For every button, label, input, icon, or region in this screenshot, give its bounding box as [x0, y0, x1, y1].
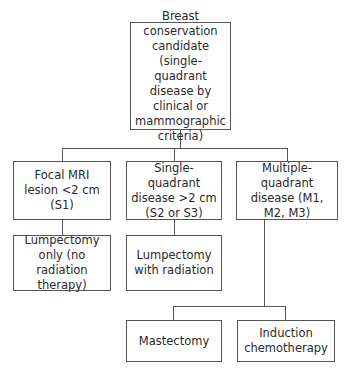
- branch-node-focal-lesion: Focal MRI lesion <2 cm (S1): [13, 161, 111, 220]
- connector-branch-2: [174, 148, 175, 161]
- root-node: Breast conservation candidate (single-qu…: [130, 22, 231, 130]
- branch-node-multiple-quadrant: Multiple-quadrant disease (M1, M2, M3): [236, 161, 338, 220]
- connector-branch-2-outcome: [174, 220, 175, 235]
- connector-mastectomy: [173, 306, 174, 320]
- outcome-node-induction-chemotherapy: Induction chemotherapy: [237, 320, 335, 362]
- outcome-node-mastectomy: Mastectomy: [126, 320, 222, 362]
- outcome-node-label: Induction chemotherapy: [241, 326, 331, 356]
- connector-branch-3-down: [264, 220, 265, 306]
- branch-node-single-quadrant: Single-quadrant disease >2 cm (S2 or S3): [126, 161, 222, 220]
- connector-horizontal-branches: [62, 148, 288, 149]
- outcome-node-lumpectomy-with-radiation: Lumpectomy with radiation: [126, 235, 222, 291]
- connector-branch-3: [287, 148, 288, 161]
- branch-node-label: Single-quadrant disease >2 cm (S2 or S3): [130, 161, 218, 221]
- outcome-node-label: Lumpectomy only (no radiation therapy): [17, 233, 107, 293]
- connector-horizontal-outcomes: [173, 306, 286, 307]
- connector-branch-1: [62, 148, 63, 161]
- branch-node-label: Multiple-quadrant disease (M1, M2, M3): [240, 161, 334, 221]
- root-node-label: Breast conservation candidate (single-qu…: [134, 9, 227, 144]
- connector-induction: [285, 306, 286, 320]
- outcome-node-lumpectomy-only: Lumpectomy only (no radiation therapy): [13, 235, 111, 291]
- outcome-node-label: Mastectomy: [139, 334, 209, 349]
- branch-node-label: Focal MRI lesion <2 cm (S1): [17, 168, 107, 213]
- outcome-node-label: Lumpectomy with radiation: [130, 248, 218, 278]
